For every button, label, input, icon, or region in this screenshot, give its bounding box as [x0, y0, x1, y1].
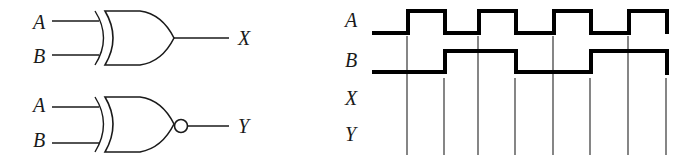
xnor-body	[105, 97, 174, 152]
xnor-input-b-label: B	[33, 129, 45, 151]
waveform-b	[372, 51, 667, 75]
timing-diagram: A B X Y	[343, 9, 667, 155]
xor-body	[105, 11, 174, 65]
timing-label-y: Y	[345, 123, 358, 145]
xor-gate: A B X	[31, 11, 251, 67]
xor-output-label: X	[237, 27, 251, 49]
xor-back-curve	[95, 11, 104, 65]
xnor-gate: A B Y	[31, 94, 251, 152]
inversion-bubble-icon	[175, 120, 188, 133]
timing-label-x: X	[344, 87, 358, 109]
timing-label-a: A	[343, 9, 358, 31]
xnor-back-curve	[95, 97, 104, 152]
xnor-input-a-label: A	[31, 94, 46, 116]
xor-input-b-label: B	[33, 45, 45, 67]
diagram-canvas: A B X A B Y A B X Y	[0, 0, 688, 166]
timing-label-b: B	[345, 49, 357, 71]
waveform-a	[372, 11, 667, 34]
xor-input-a-label: A	[31, 11, 46, 33]
xnor-output-label: Y	[238, 115, 251, 137]
